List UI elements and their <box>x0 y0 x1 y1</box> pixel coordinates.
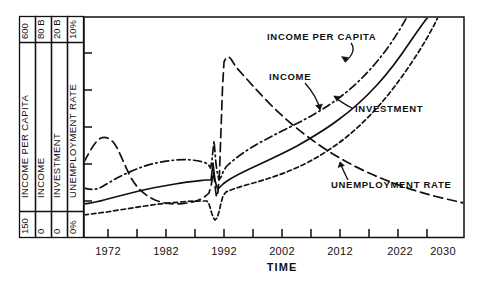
y-min-income-per-capita: 150 <box>19 218 30 234</box>
x-label-1982: 1982 <box>153 245 179 257</box>
annotation-label-investment: INVESTMENT <box>355 103 423 114</box>
y-axis-title-investment: INVESTMENT <box>51 133 62 198</box>
y-axis-title-unemployment-rate: UNEMPLOYMENT RATE <box>67 84 78 198</box>
y-max-income: 80 B <box>35 19 46 39</box>
y-min-investment: 0 <box>51 229 62 234</box>
y-axis-title-income-per-capita: INCOME PER CAPITA <box>19 95 30 198</box>
annotation-label-income: INCOME <box>269 71 311 82</box>
y-min-unemployment-rate: 0% <box>67 220 78 234</box>
economic-projection-chart: 600 80 B 20 B 10% INCOME PER CAPITA INCO… <box>0 0 483 287</box>
x-label-1972: 1972 <box>95 245 121 257</box>
annotation-label-income-per-capita: INCOME PER CAPITA <box>267 31 376 42</box>
y-max-unemployment-rate: 10% <box>67 19 78 39</box>
x-label-2022: 2022 <box>387 245 413 257</box>
x-axis-title: TIME <box>267 261 298 273</box>
y-min-income: 0 <box>35 229 46 234</box>
x-label-2030: 2030 <box>430 245 456 257</box>
chart-figure: 600 80 B 20 B 10% INCOME PER CAPITA INCO… <box>0 0 483 287</box>
x-label-2002: 2002 <box>269 245 295 257</box>
x-label-2012: 2012 <box>327 245 353 257</box>
y-axis-title-income: INCOME <box>35 158 46 198</box>
x-label-1992: 1992 <box>211 245 237 257</box>
annotation-label-unemployment-rate: UNEMPLOYMENT RATE <box>331 179 451 190</box>
y-max-income-per-capita: 600 <box>19 23 30 39</box>
y-max-investment: 20 B <box>51 19 62 39</box>
